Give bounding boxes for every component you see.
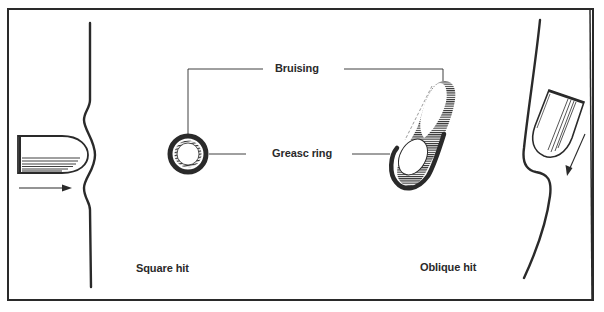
oblique-hit-caption: Oblique hit <box>420 261 476 273</box>
bruising-leader-left <box>188 69 263 134</box>
grease-ring-label: Greasc ring <box>272 147 332 159</box>
oblique-hit-panel <box>344 10 592 299</box>
bruising-leader-right <box>344 69 443 81</box>
elongated-wound <box>391 81 455 188</box>
square-hit-panel <box>18 23 263 287</box>
frame-right-edge <box>590 10 592 299</box>
square-hit-caption: Square hit <box>136 262 189 274</box>
bullet-icon <box>18 136 88 173</box>
circular-wound <box>170 136 206 172</box>
arrow-right-icon <box>19 185 72 192</box>
bullet-oblique-icon <box>533 90 584 157</box>
bruising-label: Bruising <box>275 62 319 74</box>
